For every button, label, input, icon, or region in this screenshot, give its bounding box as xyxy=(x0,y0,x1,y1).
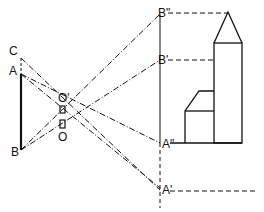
building xyxy=(170,12,242,143)
label-b-prime: B' xyxy=(158,54,168,66)
label-o: O xyxy=(58,131,67,143)
annex-roof xyxy=(185,91,214,143)
label-b-double-prime: B" xyxy=(158,7,170,19)
ray-b-to-b-double-prime xyxy=(21,14,160,150)
spire xyxy=(214,12,242,43)
label-a-double-prime: A" xyxy=(162,138,174,150)
label-b: B xyxy=(11,146,19,158)
pinhole-diagram: C A B O' O B" B' A" A' xyxy=(0,0,264,212)
label-c: C xyxy=(9,45,18,57)
ray-b-to-b-prime xyxy=(21,60,160,150)
label-o-prime: O' xyxy=(58,92,70,104)
ray-c xyxy=(21,58,160,190)
ray-a-to-a-prime xyxy=(21,74,160,188)
label-a: A xyxy=(9,65,17,77)
ray-a-to-a-double-prime xyxy=(21,74,160,143)
label-a-prime: A' xyxy=(162,184,172,196)
tower xyxy=(214,43,242,143)
diagram-lines xyxy=(0,0,264,212)
